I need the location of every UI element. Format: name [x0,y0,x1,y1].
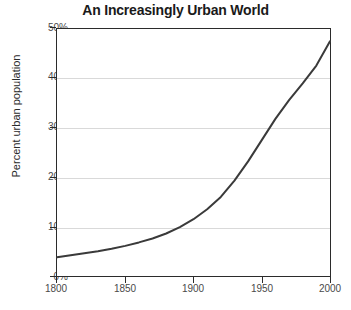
chart-title: An Increasingly Urban World [0,2,351,18]
plot-area [56,28,331,277]
x-tick-label-2000: 2000 [305,283,351,294]
series-line-urban-population [57,29,330,276]
x-tick-label-1900: 1900 [168,283,218,294]
x-tick-label-1850: 1850 [100,283,150,294]
chart-container: An Increasingly Urban World Percent urba… [0,0,351,310]
x-tick-label-1800: 1800 [31,283,81,294]
x-tick-label-1950: 1950 [237,283,287,294]
y-axis-title: Percent urban population [10,36,22,196]
